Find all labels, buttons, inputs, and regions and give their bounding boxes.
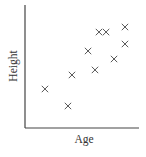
x-axis-label: Age [74,133,93,146]
x-marker-icon [103,29,109,35]
y-axis-label: Height [7,50,20,82]
axes [25,5,139,128]
x-marker-icon [92,67,98,73]
x-marker-icon [111,56,117,62]
x-marker-icon [122,24,128,30]
x-marker-icon [65,103,71,109]
x-marker-icon [69,72,75,78]
scatter-plot: Age Height [0,0,146,157]
data-points [42,24,128,109]
x-marker-icon [42,86,48,92]
x-marker-icon [96,29,102,35]
x-marker-icon [85,48,91,54]
x-marker-icon [122,41,128,47]
